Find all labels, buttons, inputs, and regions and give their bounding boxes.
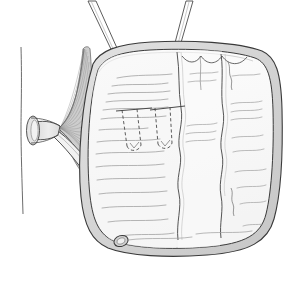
proximal-stump bbox=[27, 116, 61, 145]
vertical-line bbox=[21, 47, 23, 214]
figure-canvas bbox=[0, 0, 292, 282]
illustration-root: Surgical line drawing: bowel pouch with … bbox=[0, 0, 292, 282]
